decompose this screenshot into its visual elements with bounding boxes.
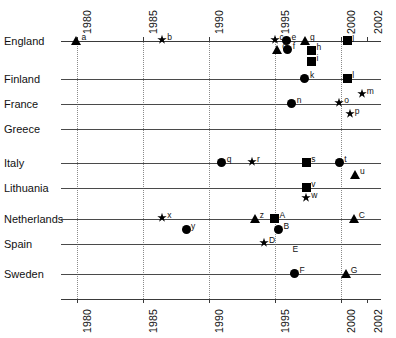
square-marker	[343, 74, 352, 83]
xtick-bottom-2000: 2000	[345, 308, 357, 332]
tick-bottom-1990	[209, 299, 210, 303]
tick-bottom-2002	[367, 299, 368, 303]
baseline-greece	[61, 129, 381, 130]
tick-top-2002	[367, 37, 368, 41]
xtick-bottom-1985: 1985	[147, 308, 159, 332]
point-label-x: x	[167, 211, 171, 220]
square-marker	[307, 57, 316, 66]
circle-marker	[300, 74, 309, 83]
xtick-top-1980: 1980	[81, 9, 93, 33]
tick-bottom-1980	[77, 299, 78, 303]
circle-marker	[274, 225, 283, 234]
xtick-top-2002: 2002	[372, 9, 384, 33]
xtick-bottom-1995: 1995	[279, 308, 291, 332]
point-label-B: B	[284, 222, 290, 231]
point-label-a: a	[82, 33, 87, 42]
square-marker	[343, 36, 352, 45]
ylabel-lithuania: Lithuania	[4, 183, 49, 194]
square-marker	[302, 158, 311, 167]
point-label-n: n	[297, 96, 302, 105]
tick-bottom-1985	[143, 299, 144, 303]
point-label-i: i	[317, 54, 319, 63]
point-label-t: t	[344, 155, 346, 164]
ylabel-netherlands: Netherlands	[4, 214, 63, 225]
xtick-top-1995: 1995	[279, 9, 291, 33]
xtick-top-1985: 1985	[147, 9, 159, 33]
ylabel-spain: Spain	[4, 239, 32, 250]
point-label-u: u	[360, 167, 365, 176]
point-label-D: D	[269, 236, 275, 245]
point-label-l: l	[352, 71, 354, 80]
baseline-sweden	[61, 274, 381, 275]
triangle-marker	[350, 170, 360, 179]
point-label-A: A	[280, 211, 286, 220]
ylabel-england: England	[4, 36, 44, 47]
bottom-axis-line	[61, 299, 381, 300]
chart-root: 1980198019851985199019901995199520002000…	[0, 0, 396, 338]
baseline-lithuania	[61, 188, 381, 189]
point-label-m: m	[367, 87, 374, 96]
baseline-spain	[61, 244, 381, 245]
xtick-bottom-2002: 2002	[372, 308, 384, 332]
xtick-bottom-1990: 1990	[213, 308, 225, 332]
point-label-r: r	[257, 155, 260, 164]
baseline-netherlands	[61, 219, 381, 220]
tick-top-2000	[341, 37, 342, 41]
triangle-marker	[349, 214, 359, 223]
point-label-o: o	[344, 96, 349, 105]
triangle-marker	[71, 36, 81, 45]
point-label-k: k	[310, 71, 314, 80]
point-label-v: v	[311, 180, 315, 189]
xtick-top-1990: 1990	[213, 9, 225, 33]
circle-marker	[283, 45, 292, 54]
circle-marker	[290, 269, 299, 278]
tick-top-1985	[143, 37, 144, 41]
plot-area: 1980198019851985199019901995199520002000…	[0, 0, 396, 338]
point-label-y: y	[191, 222, 195, 231]
triangle-marker	[250, 214, 260, 223]
ylabel-sweden: Sweden	[4, 269, 44, 280]
point-label-b: b	[167, 33, 172, 42]
xtick-bottom-1980: 1980	[81, 308, 93, 332]
ylabel-finland: Finland	[4, 74, 40, 85]
point-label-q: q	[227, 155, 232, 164]
ylabel-greece: Greece	[4, 124, 40, 135]
triangle-marker	[300, 36, 310, 45]
point-label-g: g	[310, 33, 315, 42]
triangle-marker	[272, 45, 282, 54]
xtick-top-2000: 2000	[345, 9, 357, 33]
point-label-G: G	[351, 266, 358, 275]
triangle-marker	[341, 269, 351, 278]
point-label-E: E	[292, 245, 298, 254]
tick-bottom-2000	[341, 299, 342, 303]
point-label-h: h	[317, 43, 322, 52]
ylabel-italy: Italy	[4, 158, 24, 169]
square-marker	[307, 46, 316, 55]
point-label-C: C	[359, 211, 365, 220]
point-label-j: j	[352, 33, 354, 42]
square-marker	[302, 183, 311, 192]
square-marker	[270, 214, 279, 223]
circle-marker	[287, 99, 296, 108]
baseline-finland	[61, 79, 381, 80]
point-label-w: w	[311, 191, 317, 200]
point-label-z: z	[260, 211, 264, 220]
point-label-p: p	[355, 107, 360, 116]
top-axis-line	[61, 41, 381, 42]
point-label-F: F	[299, 266, 304, 275]
point-label-f: f	[293, 42, 295, 51]
ylabel-france: France	[4, 99, 38, 110]
circle-marker	[182, 225, 191, 234]
point-label-e: e	[291, 33, 296, 42]
circle-marker	[217, 158, 226, 167]
circle-marker	[335, 158, 344, 167]
tick-bottom-1995	[275, 299, 276, 303]
tick-top-1990	[209, 37, 210, 41]
point-label-s: s	[311, 155, 315, 164]
